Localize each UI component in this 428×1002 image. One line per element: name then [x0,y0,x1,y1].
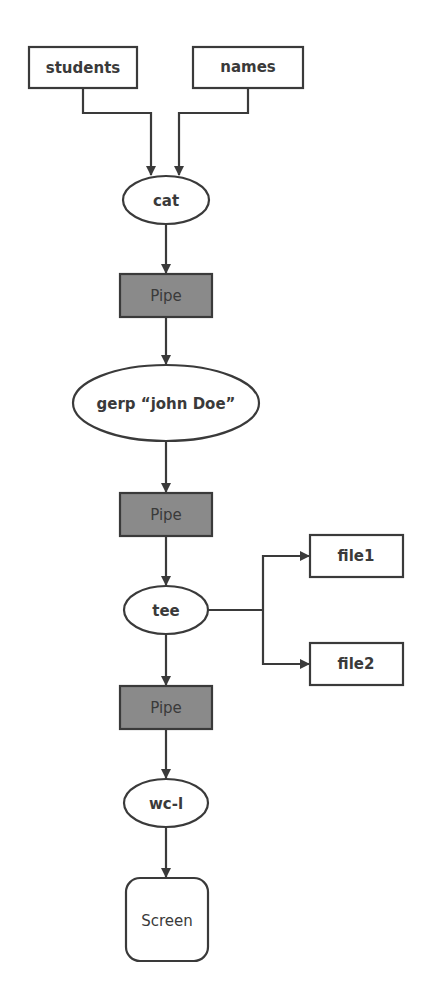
input-students-label: students [46,59,121,77]
node-pipe3-label: Pipe [150,699,182,717]
node-screen-label: Screen [141,912,193,930]
node-wc-label: wc-l [149,795,183,813]
node-pipe1: Pipe [120,274,212,317]
node-tee-label: tee [152,602,180,620]
output-file1-label: file1 [338,547,375,565]
edge-tee-file1 [263,556,309,610]
node-grep-label: gerp “john Doe” [97,395,236,413]
node-screen: Screen [126,878,208,961]
node-wc: wc-l [124,779,208,827]
node-pipe2: Pipe [120,493,212,536]
output-file2: file2 [310,643,403,685]
node-cat-label: cat [153,192,179,210]
input-students: students [29,47,137,88]
edge-tee-file2 [263,610,309,664]
node-tee: tee [124,586,208,634]
node-pipe2-label: Pipe [150,506,182,524]
pipeline-diagram: students names cat Pipe gerp “john Doe” … [0,0,428,1002]
node-cat: cat [123,176,209,224]
node-pipe3: Pipe [120,686,212,729]
edge-names-cat [179,88,248,175]
output-file1: file1 [310,535,403,577]
input-names-label: names [220,58,276,76]
node-grep: gerp “john Doe” [73,365,259,441]
edge-students-cat [83,88,151,175]
node-pipe1-label: Pipe [150,287,182,305]
output-file2-label: file2 [338,655,375,673]
input-names: names [193,47,303,88]
